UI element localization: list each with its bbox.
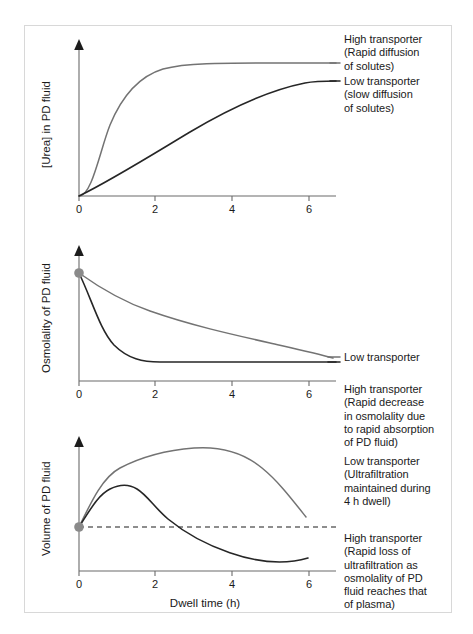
panel-urea-y-axis-arrow: [74, 39, 84, 50]
low-transporter-osmolality-annotation: Low transporter: [344, 351, 464, 364]
panel-osmolality-y-axis-arrow: [74, 245, 84, 256]
panel-urea-high-transporter-curve: [79, 63, 336, 196]
panel-osmolality-start-marker: [74, 268, 84, 278]
panel-urea-y-axis-label: [Urea] in PD fluid: [40, 81, 52, 168]
panel-volume-high-transporter-curve: [79, 485, 308, 562]
panel-volume-xtick-label-1: 2: [152, 578, 158, 590]
figure-root: 0 2 4 6 [Urea] in PD fluid 0 2 4 6 Osmol…: [0, 0, 473, 634]
high-transporter-volume-annotation: High transporter (Rapid loss of ultrafil…: [344, 532, 468, 612]
annotation-leaders: [328, 63, 340, 362]
panel-volume-y-axis-label: Volume of PD fluid: [40, 461, 52, 556]
panel-volume-xtick-label-3: 6: [306, 578, 312, 590]
panel-osmolality-xtick-label-2: 4: [229, 388, 235, 400]
panel-osmolality: 0 2 4 6 Osmolality of PD fluid: [40, 245, 336, 400]
high-transporter-osmolality-annotation: High transporter (Rapid decrease in osmo…: [344, 383, 466, 449]
panel-osmolality-y-axis-label: Osmolality of PD fluid: [40, 263, 52, 373]
panel-urea-low-transporter-curve: [79, 81, 336, 196]
panel-volume: 0 2 4 6 Volume of PD fluid Dwell time (h…: [40, 436, 336, 609]
panel-volume-xtick-label-0: 0: [76, 578, 82, 590]
panel-osmolality-xtick-label-0: 0: [76, 388, 82, 400]
panel-urea-xtick-label-2: 4: [229, 203, 235, 215]
panel-volume-xtick-label-2: 4: [229, 578, 235, 590]
low-transporter-urea-annotation: Low transporter (slow diffusion of solut…: [344, 75, 464, 115]
panel-osmolality-low-transporter-curve: [79, 273, 333, 358]
panel-urea-xtick-label-0: 0: [76, 203, 82, 215]
panel-osmolality-xtick-label-3: 6: [306, 388, 312, 400]
panel-volume-y-axis-arrow: [74, 436, 84, 447]
panel-urea: 0 2 4 6 [Urea] in PD fluid: [40, 39, 336, 215]
panel-osmolality-xtick-label-1: 2: [152, 388, 158, 400]
panel-volume-x-axis-label: Dwell time (h): [170, 597, 240, 609]
high-transporter-urea-annotation: High transporter (Rapid diffusion of sol…: [344, 33, 464, 73]
panel-urea-xtick-label-3: 6: [306, 203, 312, 215]
panel-volume-start-marker: [74, 522, 84, 532]
low-transporter-volume-annotation: Low transporter (Ultrafiltration maintai…: [344, 455, 468, 508]
panel-urea-xtick-label-1: 2: [152, 203, 158, 215]
